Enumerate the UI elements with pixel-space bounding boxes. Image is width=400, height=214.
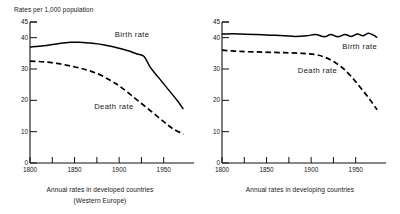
series-label-birth-rate: Birth rate — [342, 42, 377, 51]
series-line-death-rate — [30, 61, 183, 134]
series-line-birth-rate — [222, 33, 377, 37]
x-tick-label: 1850 — [254, 166, 280, 173]
series-line-death-rate — [222, 50, 377, 110]
y-tick-label: 45 — [206, 18, 220, 25]
chart-panel-developed: Rates per 1,000 population Annual rates … — [0, 0, 200, 214]
y-tick-label: 20 — [14, 96, 28, 103]
x-tick-label: 1900 — [106, 166, 132, 173]
y-tick-label: 20 — [206, 96, 220, 103]
series-label-death-rate: Death rate — [298, 66, 337, 75]
demographic-transition-figure: Rates per 1,000 population Annual rates … — [0, 0, 400, 214]
y-tick-label: 0 — [206, 159, 220, 166]
chart-plot-right — [200, 0, 400, 214]
x-tick-label: 1950 — [151, 166, 177, 173]
caption-developed-line2: (Western Europe) — [0, 197, 200, 204]
y-tick-label: 10 — [206, 128, 220, 135]
y-tick-label: 30 — [14, 65, 28, 72]
y-tick-label: 45 — [14, 18, 28, 25]
y-tick-label: 10 — [14, 128, 28, 135]
chart-panel-developing: Annual rates in developing countries 010… — [200, 0, 400, 214]
x-tick-label: 1900 — [298, 166, 324, 173]
series-label-death-rate: Death rate — [94, 102, 133, 111]
x-tick-label: 1800 — [209, 166, 235, 173]
caption-developed-line1: Annual rates in developed countries — [0, 186, 200, 193]
x-tick-label: 1800 — [17, 166, 43, 173]
series-line-birth-rate — [30, 42, 183, 109]
y-tick-label: 40 — [14, 34, 28, 41]
y-tick-label: 0 — [14, 159, 28, 166]
caption-developing-line1: Annual rates in developing countries — [200, 186, 400, 193]
series-label-birth-rate: Birth rate — [115, 30, 150, 39]
y-tick-label: 30 — [206, 65, 220, 72]
x-tick-label: 1950 — [343, 166, 369, 173]
y-tick-label: 40 — [206, 34, 220, 41]
x-tick-label: 1850 — [62, 166, 88, 173]
